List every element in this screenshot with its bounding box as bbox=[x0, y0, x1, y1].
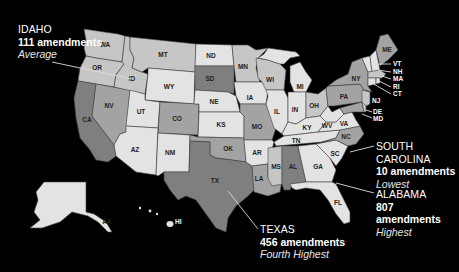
label-il: IL bbox=[274, 108, 280, 115]
label-co: CO bbox=[172, 115, 182, 122]
label-ne: NE bbox=[209, 98, 219, 105]
leader-south-carolina bbox=[350, 146, 374, 152]
label-nv: NV bbox=[104, 102, 114, 109]
label-md: MD bbox=[373, 115, 383, 122]
label-tn: TN bbox=[292, 137, 301, 144]
state-hi bbox=[139, 207, 174, 227]
state-nj bbox=[362, 90, 370, 106]
label-vt: VT bbox=[393, 60, 401, 67]
callout-alabama: ALABAMA 807 amendments Highest bbox=[376, 188, 459, 238]
label-ok: OK bbox=[223, 145, 233, 152]
label-nh: NH bbox=[393, 68, 403, 75]
callout-al-state: ALABAMA bbox=[376, 188, 459, 201]
label-ri: RI bbox=[393, 83, 400, 90]
callout-tx-state: TEXAS bbox=[260, 223, 345, 236]
label-ca: CA bbox=[82, 116, 92, 123]
label-fl: FL bbox=[334, 199, 342, 206]
label-wi: WI bbox=[266, 76, 274, 83]
label-mi: MI bbox=[296, 83, 303, 90]
leader-ct bbox=[372, 83, 391, 94]
leader-ri bbox=[379, 81, 391, 87]
callout-al-rank: Highest bbox=[376, 226, 459, 239]
label-nc: NC bbox=[341, 133, 351, 140]
label-ms: MS bbox=[271, 163, 281, 170]
leader-md bbox=[362, 114, 372, 118]
label-hi: HI bbox=[175, 218, 182, 225]
label-nd: ND bbox=[206, 52, 216, 59]
label-in: IN bbox=[292, 106, 299, 113]
label-wy: WY bbox=[164, 83, 175, 90]
label-sc: SC bbox=[330, 150, 339, 157]
label-or: OR bbox=[92, 64, 102, 71]
callout-sc-state: SOUTH CAROLINA bbox=[376, 140, 459, 165]
callout-idaho: IDAHO 111 amendments Average bbox=[18, 23, 102, 61]
label-oh: OH bbox=[309, 102, 319, 109]
label-ma: MA bbox=[393, 75, 403, 82]
callout-tx-count: 456 amendments bbox=[260, 236, 345, 249]
callout-tx-rank: Fourth Highest bbox=[260, 248, 345, 261]
label-ks: KS bbox=[216, 121, 226, 128]
callout-idaho-state: IDAHO bbox=[18, 23, 102, 36]
label-ak: AK bbox=[102, 218, 112, 225]
label-ar: AR bbox=[252, 149, 262, 156]
leader-ma bbox=[382, 76, 391, 79]
callout-idaho-rank: Average bbox=[18, 48, 102, 61]
state-ak bbox=[30, 182, 112, 232]
label-pa: PA bbox=[340, 93, 349, 100]
label-sd: SD bbox=[205, 75, 214, 82]
callout-texas: TEXAS 456 amendments Fourth Highest bbox=[260, 223, 345, 261]
label-nm: NM bbox=[165, 149, 175, 156]
label-al: AL bbox=[289, 163, 298, 170]
label-mo: MO bbox=[252, 123, 262, 130]
label-me: ME bbox=[382, 46, 392, 53]
label-de: DE bbox=[373, 108, 383, 115]
callout-idaho-count: 111 amendments bbox=[18, 36, 102, 49]
map-figure: WA OR CA NV ID MT WY UT CO AZ NM ND SD N… bbox=[0, 0, 459, 272]
label-ut: UT bbox=[137, 108, 146, 115]
label-nj: NJ bbox=[372, 97, 381, 104]
label-wv: WV bbox=[322, 122, 333, 129]
callout-al-count: 807 amendments bbox=[376, 201, 459, 226]
leader-alabama bbox=[336, 183, 374, 193]
label-ia: IA bbox=[247, 94, 254, 101]
callout-south-carolina: SOUTH CAROLINA 10 amendments Lowest bbox=[376, 140, 459, 190]
label-la: LA bbox=[255, 175, 264, 182]
label-az: AZ bbox=[131, 146, 140, 153]
callout-sc-count: 10 amendments bbox=[376, 165, 459, 178]
label-va: VA bbox=[340, 120, 349, 127]
label-ga: GA bbox=[313, 163, 323, 170]
label-ny: NY bbox=[351, 75, 361, 82]
label-ct: CT bbox=[393, 90, 402, 97]
leader-de bbox=[366, 110, 372, 112]
label-tx: TX bbox=[211, 177, 220, 184]
label-mt: MT bbox=[158, 51, 167, 58]
label-mn: MN bbox=[238, 63, 248, 70]
label-ky: KY bbox=[302, 124, 312, 131]
